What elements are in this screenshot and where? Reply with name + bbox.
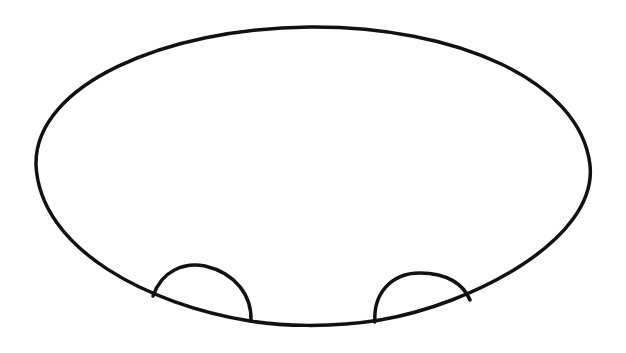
ellipse-outline: [36, 27, 590, 325]
left-dome: [153, 265, 251, 321]
line-drawing: [0, 0, 626, 353]
